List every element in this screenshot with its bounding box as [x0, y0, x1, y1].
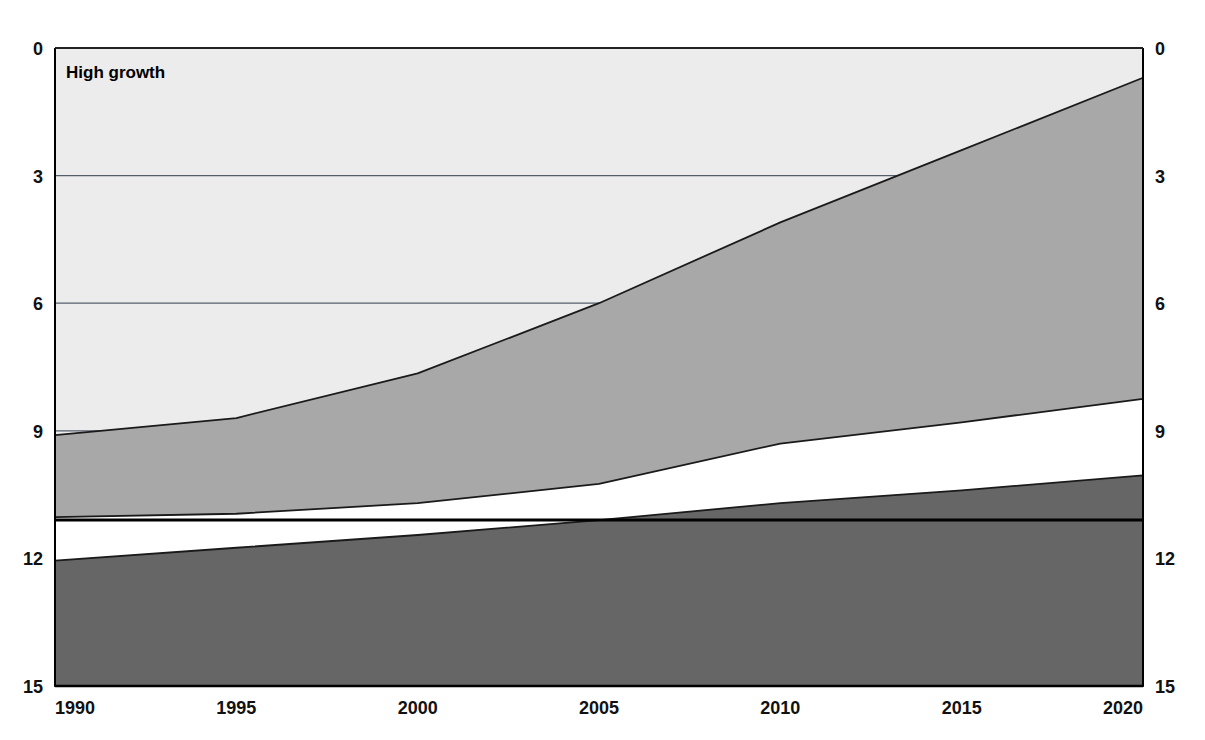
y-tick-right-12: 12: [1155, 549, 1175, 569]
y-tick-right-0: 0: [1155, 39, 1165, 59]
x-axis-labels: 1990199520002005201020152020: [55, 698, 1143, 718]
y-tick-left-15: 15: [23, 677, 43, 697]
x-tick-2005: 2005: [579, 698, 619, 718]
chart-container: 03691215 03691215 1990199520002005201020…: [0, 0, 1205, 740]
x-tick-2010: 2010: [760, 698, 800, 718]
y-tick-left-12: 12: [23, 549, 43, 569]
x-tick-1995: 1995: [216, 698, 256, 718]
y-tick-left-0: 0: [33, 39, 43, 59]
y-tick-right-9: 9: [1155, 422, 1165, 442]
x-tick-2020: 2020: [1103, 698, 1143, 718]
y-tick-right-15: 15: [1155, 677, 1175, 697]
y-tick-left-9: 9: [33, 422, 43, 442]
y-tick-left-6: 6: [33, 294, 43, 314]
y-tick-right-6: 6: [1155, 294, 1165, 314]
x-tick-2000: 2000: [398, 698, 438, 718]
x-tick-2015: 2015: [942, 698, 982, 718]
panel-title: High growth: [66, 63, 165, 82]
y-tick-right-3: 3: [1155, 167, 1165, 187]
y-axis-right-labels: 03691215: [1155, 39, 1175, 697]
y-tick-left-3: 3: [33, 167, 43, 187]
area-chart: 03691215 03691215 1990199520002005201020…: [0, 0, 1205, 740]
x-tick-1990: 1990: [55, 698, 95, 718]
y-axis-left-labels: 03691215: [23, 39, 43, 697]
